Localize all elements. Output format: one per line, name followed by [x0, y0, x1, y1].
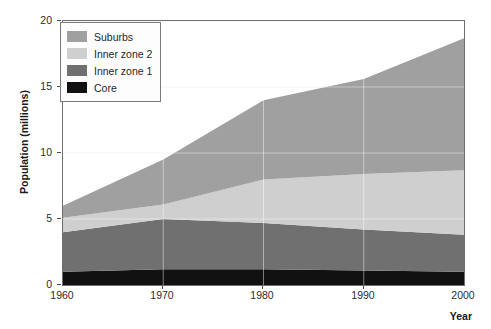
y-tick-label: 0: [24, 279, 52, 290]
y-tick-label: 5: [24, 213, 52, 224]
y-tick-5: 5: [24, 213, 52, 224]
legend-item-core[interactable]: Core: [67, 79, 152, 96]
legend-swatch-icon: [67, 82, 87, 93]
x-axis-title: Year: [420, 310, 472, 322]
x-tick-1980: 1980: [237, 289, 287, 301]
y-tick-15: 15: [24, 81, 52, 92]
legend-item-inner-zone-2[interactable]: Inner zone 2: [67, 45, 152, 62]
y-tick-mark-20: [57, 20, 61, 21]
legend-item-suburbs[interactable]: Suburbs: [67, 28, 152, 45]
legend-item-label: Core: [94, 82, 117, 94]
y-tick-mark-10: [57, 152, 61, 153]
y-tick-0: 0: [24, 279, 52, 290]
y-tick-label: 15: [24, 81, 52, 92]
legend-item-label: Inner zone 1: [94, 65, 152, 77]
x-tick-1990: 1990: [338, 289, 388, 301]
y-tick-label: 10: [24, 147, 52, 158]
y-axis-title: Population (millions): [14, 0, 34, 284]
legend-swatch-icon: [67, 48, 87, 59]
x-tick-2000: 2000: [438, 289, 488, 301]
chart-legend: SuburbsInner zone 2Inner zone 1Core: [60, 22, 161, 102]
x-tick-1960: 1960: [37, 289, 87, 301]
y-tick-20: 20: [24, 15, 52, 26]
legend-swatch-icon: [67, 65, 87, 76]
legend-item-inner-zone-1[interactable]: Inner zone 1: [67, 62, 152, 79]
legend-item-label: Inner zone 2: [94, 48, 152, 60]
x-tick-1970: 1970: [137, 289, 187, 301]
y-tick-mark-5: [57, 218, 61, 219]
y-tick-label: 20: [24, 15, 52, 26]
y-tick-mark-0: [57, 284, 61, 285]
chart-figure: Population (millions) Year 0 5 10 15 20 …: [0, 0, 491, 329]
legend-swatch-icon: [67, 31, 87, 42]
y-tick-10: 10: [24, 147, 52, 158]
legend-item-label: Suburbs: [94, 31, 133, 43]
